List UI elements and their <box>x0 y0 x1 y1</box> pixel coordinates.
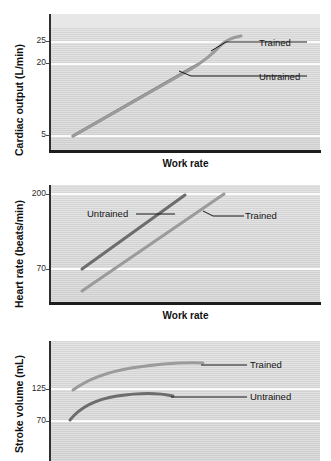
line-trained-cardiac <box>73 36 241 136</box>
cropped-caption-sliver: . . . . . . . . <box>0 0 331 9</box>
line-untrained-stroke <box>70 394 173 421</box>
x-axis-title-cardiac: Work rate <box>51 158 320 169</box>
y-axis-title-stroke-volume: Stroke volume (mL) <box>14 355 25 453</box>
leader-line-trained-heart <box>203 211 244 216</box>
plot-area-stroke: Trained Untrained <box>51 341 320 461</box>
x-axis-title-heart: Work rate <box>51 310 320 321</box>
series-label-untrained-heart: Untrained <box>87 209 128 219</box>
x-axis-line-heart <box>49 302 321 305</box>
y-tick-label-200: 200 <box>20 189 46 198</box>
series-label-untrained-stroke: Untrained <box>250 392 291 402</box>
series-label-trained-cardiac: Trained <box>259 38 291 48</box>
panel-heart-rate: Heart rate (beats/min) 200 70 Untrained … <box>0 185 331 325</box>
x-axis-line-cardiac <box>49 150 321 153</box>
y-tick-label-125: 125 <box>20 384 46 393</box>
y-tick-label-70: 70 <box>20 416 46 425</box>
y-tick-label-25: 25 <box>24 36 46 45</box>
series-lines-cardiac <box>51 14 320 150</box>
plot-area-cardiac: Trained Untrained <box>51 14 320 150</box>
line-trained-stroke <box>73 363 203 390</box>
y-tick-label-70: 70 <box>20 264 46 273</box>
series-lines-heart <box>51 185 320 302</box>
series-label-untrained-cardiac: Untrained <box>259 72 300 82</box>
series-label-trained-stroke: Trained <box>250 360 282 370</box>
panel-stroke-volume: Stroke volume (mL) 125 70 Trained Untrai… <box>0 341 331 461</box>
plot-area-heart: Untrained Trained <box>51 185 320 302</box>
y-axis-title-heart-rate: Heart rate (beats/min) <box>14 200 25 308</box>
y-tick-label-20: 20 <box>24 58 46 67</box>
y-tick-label-5: 5 <box>24 130 46 139</box>
figure-three-panel-exercise-response: . . . . . . . . Cardiac output (L/min) 2… <box>0 0 331 461</box>
series-label-trained-heart: Trained <box>245 211 277 221</box>
panel-cardiac-output: Cardiac output (L/min) 25 20 5 Trained U… <box>0 10 331 160</box>
